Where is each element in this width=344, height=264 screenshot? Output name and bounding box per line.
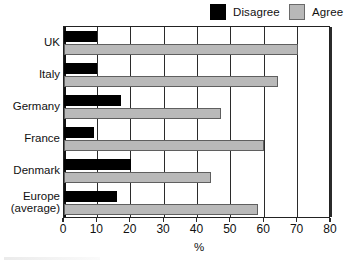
y-axis-label-line1-1: Italy — [0, 68, 60, 80]
black-square-swatch-icon — [210, 4, 226, 20]
x-tick-label-40: 40 — [184, 222, 210, 236]
bar-disagree-0 — [64, 31, 97, 42]
x-tick-label-80: 80 — [317, 222, 343, 236]
gridline-80 — [330, 27, 331, 217]
y-axis-label-line1-2: Germany — [0, 100, 60, 112]
x-tick-label-20: 20 — [117, 222, 143, 236]
x-tick-label-30: 30 — [150, 222, 176, 236]
bar-disagree-4 — [64, 159, 131, 170]
y-axis-labels: UKItalyGermanyFranceDenmarkEurope(averag… — [0, 26, 60, 218]
y-axis-label-0: UK — [0, 36, 60, 48]
y-axis-label-2: Germany — [0, 100, 60, 112]
bar-group-europe-average — [64, 187, 329, 219]
legend-item-agree: Agree — [289, 4, 343, 20]
bar-group-uk — [64, 27, 329, 59]
bar-disagree-5 — [64, 191, 117, 202]
legend-label-disagree: Disagree — [233, 6, 280, 18]
y-axis-label-3: France — [0, 132, 60, 144]
y-axis-label-line1-5: Europe — [0, 190, 60, 202]
y-axis-label-5: Europe(average) — [0, 190, 60, 214]
y-axis-label-line1-3: France — [0, 132, 60, 144]
bar-disagree-2 — [64, 95, 121, 106]
bar-chart: Disagree Agree UKItalyGermanyFranceDenma… — [0, 0, 344, 264]
y-axis-label-1: Italy — [0, 68, 60, 80]
gray-square-swatch-icon — [289, 4, 305, 20]
x-axis-title-text: % — [194, 241, 204, 253]
bar-agree-2 — [64, 108, 221, 119]
bar-disagree-3 — [64, 127, 94, 138]
x-tick-label-70: 70 — [284, 222, 310, 236]
scan-artifact — [4, 257, 100, 260]
bar-agree-4 — [64, 172, 211, 183]
bar-agree-3 — [64, 140, 264, 151]
legend-item-disagree: Disagree — [210, 4, 280, 20]
x-tick-label-10: 10 — [83, 222, 109, 236]
y-axis-label-4: Denmark — [0, 164, 60, 176]
plot-area — [63, 26, 330, 218]
bar-group-italy — [64, 59, 329, 91]
legend-label-agree: Agree — [312, 6, 343, 18]
y-axis-label-line1-0: UK — [0, 36, 60, 48]
chart-legend: Disagree Agree — [0, 2, 344, 22]
x-axis-title: % — [0, 241, 344, 253]
bar-series-container — [64, 27, 329, 217]
bar-group-germany — [64, 91, 329, 123]
x-tick-label-0: 0 — [50, 222, 76, 236]
bar-agree-0 — [64, 44, 298, 55]
x-tick-label-50: 50 — [217, 222, 243, 236]
bar-group-france — [64, 123, 329, 155]
x-tick-label-60: 60 — [250, 222, 276, 236]
bar-disagree-1 — [64, 63, 97, 74]
bar-group-denmark — [64, 155, 329, 187]
y-axis-label-line2-5: (average) — [0, 202, 60, 214]
bar-agree-5 — [64, 204, 258, 215]
y-axis-label-line1-4: Denmark — [0, 164, 60, 176]
x-axis-tick-labels: 01020304050607080 — [0, 222, 344, 238]
bar-agree-1 — [64, 76, 278, 87]
